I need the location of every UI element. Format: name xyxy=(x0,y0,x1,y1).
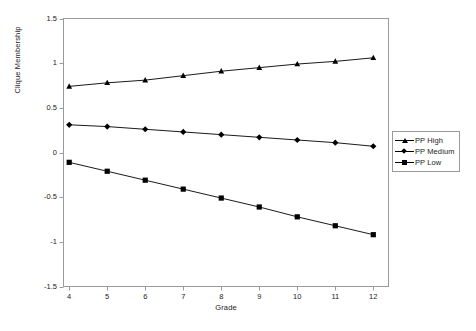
data-point xyxy=(105,169,110,174)
data-point xyxy=(371,232,376,237)
y-axis-title-text: Clique Membership xyxy=(13,10,22,110)
x-tick-label: 5 xyxy=(92,292,122,301)
data-point xyxy=(143,178,148,183)
legend-label: PP High xyxy=(414,136,443,145)
chart-figure: 1.510.50-0.5-1-1.5 456789101112 Clique M… xyxy=(0,0,476,331)
x-tick-label: 11 xyxy=(320,292,350,301)
x-tick-label: 12 xyxy=(358,292,388,301)
legend-item-pp-high: PP High xyxy=(395,135,455,146)
data-point xyxy=(181,187,186,192)
legend-marker-diamond-icon xyxy=(395,146,414,157)
y-tick-label: -1.5 xyxy=(31,283,57,291)
x-tick-label: 10 xyxy=(282,292,312,301)
x-axis-title: Grade xyxy=(63,303,389,312)
y-tick-label: -0.5 xyxy=(31,193,57,201)
legend-item-pp-medium: PP Medium xyxy=(395,146,455,157)
data-point xyxy=(333,223,338,228)
x-axis-title-text: Grade xyxy=(215,303,237,312)
legend-label: PP Medium xyxy=(414,147,455,156)
legend-label: PP Low xyxy=(414,158,441,167)
x-tick-label: 8 xyxy=(206,292,236,301)
x-tick-label: 9 xyxy=(244,292,274,301)
chart-legend: PP High PP Medium PP Low xyxy=(392,131,460,172)
data-point xyxy=(219,195,224,200)
legend-marker-triangle-icon xyxy=(395,135,414,146)
x-tick-label: 4 xyxy=(54,292,84,301)
y-tick-label: -1 xyxy=(31,238,57,246)
legend-item-pp-low: PP Low xyxy=(395,157,455,168)
y-axis-ticks: 1.510.50-0.5-1-1.5 xyxy=(27,0,57,331)
y-tick-label: 1 xyxy=(31,59,57,67)
plot-frame xyxy=(64,19,389,287)
data-point xyxy=(67,160,72,165)
y-axis-title: Clique Membership xyxy=(13,10,27,110)
x-tick-label: 7 xyxy=(168,292,198,301)
y-tick-label: 0.5 xyxy=(31,104,57,112)
y-tick-label: 0 xyxy=(31,149,57,157)
data-point xyxy=(257,204,262,209)
legend-marker-square-icon xyxy=(395,157,414,168)
y-tick-label: 1.5 xyxy=(31,15,57,23)
data-point xyxy=(295,214,300,219)
x-tick-label: 6 xyxy=(130,292,160,301)
